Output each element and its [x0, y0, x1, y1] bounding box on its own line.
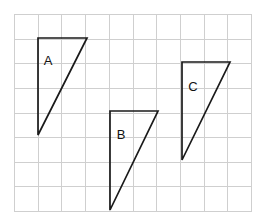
- triangle-label-b: B: [117, 127, 126, 142]
- triangle-label-c: C: [188, 79, 197, 94]
- figure-canvas: ABC: [0, 0, 264, 224]
- geometry-figure: ABC: [0, 0, 264, 224]
- triangle-label-a: A: [44, 53, 53, 68]
- triangle-c: [182, 62, 230, 160]
